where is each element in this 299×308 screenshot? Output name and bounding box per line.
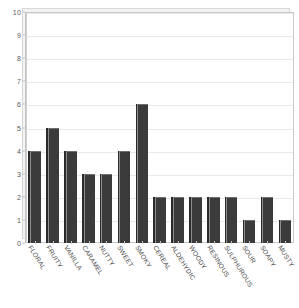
x-axis-category-label: SMOKY	[134, 244, 153, 269]
x-axis-category-label: SWEET	[116, 244, 135, 268]
bar[interactable]	[226, 197, 237, 243]
bar[interactable]	[191, 197, 202, 243]
y-axis-tick-label: 10	[13, 9, 21, 16]
y-axis-tick-mark	[22, 81, 25, 82]
bar[interactable]	[101, 174, 112, 243]
y-axis-tick-mark	[22, 243, 25, 244]
x-axis-category-label: NUTTY	[98, 244, 116, 267]
bar[interactable]	[30, 151, 41, 243]
x-axis-category-label: FRUITY	[45, 244, 64, 269]
bar[interactable]	[262, 197, 273, 243]
bar[interactable]	[137, 104, 148, 243]
x-axis-tick-mark	[160, 241, 161, 244]
y-axis-tick-mark	[22, 58, 25, 59]
bar[interactable]	[66, 151, 77, 243]
x-axis-tick-mark	[267, 241, 268, 244]
y-axis-tick-label: 6	[17, 101, 21, 108]
x-axis-category-labels: FLORALFRUITYVANILLACARAMELNUTTYSWEETSMOK…	[26, 244, 294, 308]
bar[interactable]	[244, 220, 255, 243]
x-axis-tick-mark	[249, 241, 250, 244]
y-axis-tick-label: 9	[17, 32, 21, 39]
x-axis-category-label: WOODY	[188, 244, 208, 270]
x-axis-tick-mark	[106, 241, 107, 244]
y-axis-tick-label: 4	[17, 147, 21, 154]
x-axis-category-label: SOAPY	[259, 244, 278, 268]
y-axis-tick-label: 3	[17, 170, 21, 177]
y-axis-tick-mark	[22, 12, 25, 13]
bar[interactable]	[209, 197, 220, 243]
x-axis-tick-mark	[142, 241, 143, 244]
bar-series	[26, 12, 294, 243]
y-axis-tick-label: 1	[17, 216, 21, 223]
y-axis-tick-mark	[22, 104, 25, 105]
y-axis-tick-mark	[22, 150, 25, 151]
x-axis-tick-mark	[71, 241, 72, 244]
x-axis-tick-mark	[124, 241, 125, 244]
y-axis-tick-mark	[22, 35, 25, 36]
x-axis-category-label: MUSTY	[277, 244, 296, 268]
x-axis-tick-mark	[285, 241, 286, 244]
bar[interactable]	[48, 128, 59, 244]
x-axis-tick-mark	[35, 241, 36, 244]
x-axis-tick-mark	[231, 241, 232, 244]
bar[interactable]	[84, 174, 95, 243]
x-axis-category-label: FLORAL	[27, 244, 47, 270]
x-axis-tick-mark	[196, 241, 197, 244]
bar[interactable]	[119, 151, 130, 243]
y-axis-tick-label: 2	[17, 193, 21, 200]
bar[interactable]	[173, 197, 184, 243]
y-axis-tick-mark	[22, 127, 25, 128]
x-axis-tick-mark	[214, 241, 215, 244]
x-axis-category-label: SOUR	[241, 244, 257, 265]
y-axis-tick-label: 7	[17, 78, 21, 85]
y-axis-tick-label: 5	[17, 124, 21, 131]
bar-chart: 012345678910 FLORALFRUITYVANILLACARAMELN…	[0, 0, 299, 308]
x-axis-tick-mark	[89, 241, 90, 244]
y-axis-tick-mark	[22, 219, 25, 220]
y-axis-tick-label: 0	[17, 240, 21, 247]
bar[interactable]	[280, 220, 291, 243]
y-axis-tick-label: 8	[17, 55, 21, 62]
x-axis-tick-mark	[178, 241, 179, 244]
y-axis-tick-mark	[22, 196, 25, 197]
x-axis-tick-mark	[53, 241, 54, 244]
y-axis-tick-mark	[22, 173, 25, 174]
bar[interactable]	[155, 197, 166, 243]
